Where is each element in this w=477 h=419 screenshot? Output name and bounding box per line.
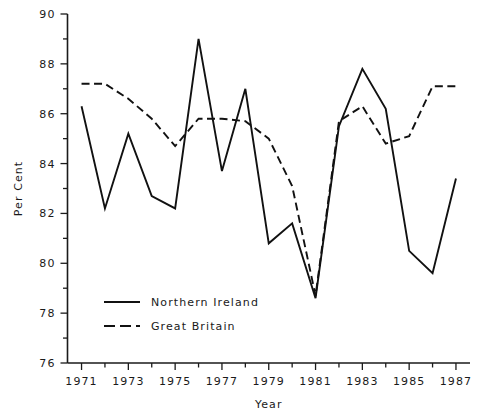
y-tick-label: 88 <box>39 58 55 71</box>
x-axis-title: Year <box>254 398 283 411</box>
x-tick-label: 1973 <box>112 375 144 388</box>
y-tick-label: 82 <box>39 207 55 220</box>
x-tick-label: 1987 <box>440 375 472 388</box>
y-tick-label: 78 <box>39 307 55 320</box>
y-axis-title: Per Cent <box>12 161 25 217</box>
chart-legend: Northern IrelandGreat Britain <box>104 296 259 333</box>
x-tick-label: 1975 <box>159 375 191 388</box>
x-axis: 197119731975197719791981198319851987 Yea… <box>65 363 472 411</box>
x-tick-label: 1977 <box>206 375 238 388</box>
x-axis-major-ticks <box>82 363 456 370</box>
y-tick-label: 84 <box>39 158 55 171</box>
series-layer <box>82 39 456 298</box>
legend-label: Great Britain <box>151 320 236 333</box>
x-axis-tick-labels: 197119731975197719791981198319851987 <box>65 375 472 388</box>
y-tick-label: 76 <box>39 357 55 370</box>
legend-label: Northern Ireland <box>151 296 259 309</box>
line-chart: 7678808284868890 Per Cent 19711973197519… <box>0 0 477 419</box>
series-line-1 <box>82 39 456 298</box>
y-tick-label: 90 <box>39 8 55 21</box>
x-tick-label: 1981 <box>299 375 331 388</box>
x-tick-label: 1983 <box>346 375 378 388</box>
y-axis-tick-labels: 7678808284868890 <box>39 8 55 370</box>
x-tick-label: 1979 <box>253 375 285 388</box>
y-axis: 7678808284868890 Per Cent <box>12 8 68 370</box>
x-tick-label: 1971 <box>65 375 97 388</box>
y-tick-label: 86 <box>39 108 55 121</box>
x-tick-label: 1985 <box>393 375 425 388</box>
y-tick-label: 80 <box>39 257 55 270</box>
chart-container: 7678808284868890 Per Cent 19711973197519… <box>0 0 477 419</box>
